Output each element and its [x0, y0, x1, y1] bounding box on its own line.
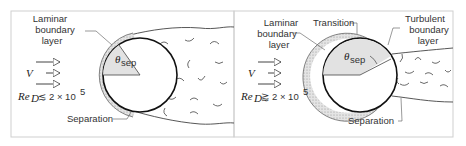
flow-separation-diagram: Laminar boundary layer V θ sep Re D ≲ 2 …: [0, 0, 466, 146]
left-laminar-label-3: layer: [42, 35, 63, 46]
right-laminar-label-1: Laminar: [264, 17, 298, 28]
right-wake-eddies: [397, 54, 451, 87]
right-turbulent-label-2: boundary: [409, 24, 449, 35]
left-re-relation: ≲: [38, 91, 46, 102]
right-laminar-label-2: boundary: [257, 28, 297, 39]
right-turbulent-label-1: Turbulent: [405, 13, 445, 24]
left-re-label: Re: [17, 90, 30, 102]
right-transition-label: Transition: [313, 17, 354, 28]
right-velocity-arrows: [258, 62, 281, 84]
right-re-value: 2 × 10: [272, 91, 299, 102]
left-theta-sub: sep: [121, 57, 136, 68]
right-re-relation: ⪆: [261, 91, 269, 102]
left-laminar-label-2: boundary: [35, 24, 75, 35]
left-velocity-label: V: [26, 67, 34, 79]
right-re-exponent: 5: [303, 86, 308, 97]
left-velocity-arrows: [36, 62, 60, 84]
left-wake-outline: [130, 27, 234, 35]
left-laminar-label-1: Laminar: [33, 13, 67, 24]
left-separation-label: Separation: [67, 113, 113, 124]
right-panel: Laminar boundary layer Transition Turbul…: [240, 13, 453, 126]
right-theta-sub: sep: [350, 54, 365, 65]
right-velocity-label: V: [248, 67, 256, 79]
right-turbulent-label-3: layer: [418, 35, 439, 46]
left-panel: Laminar boundary layer V θ sep Re D ≲ 2 …: [17, 13, 234, 124]
left-re-value: 2 × 10: [49, 91, 76, 102]
left-re-exponent: 5: [80, 86, 85, 97]
right-wake-outline: [392, 48, 453, 54]
right-laminar-label-3: layer: [269, 39, 290, 50]
right-separation-label: Separation: [348, 115, 394, 126]
right-re-label: Re: [240, 90, 253, 102]
